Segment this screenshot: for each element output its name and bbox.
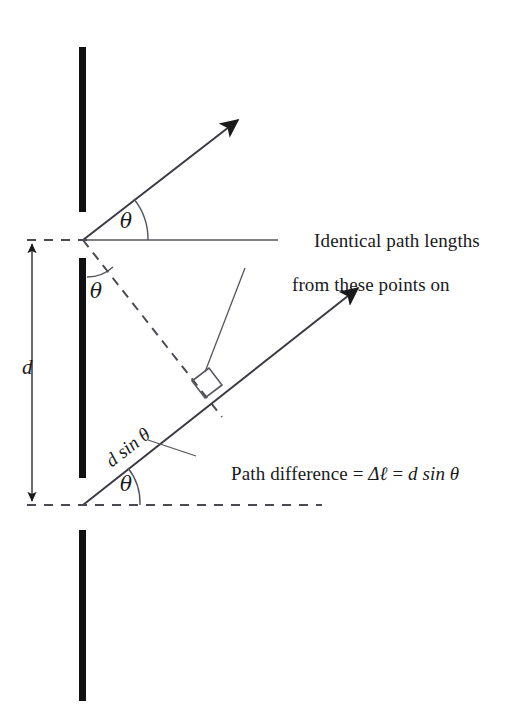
bottom-barrier: [79, 530, 86, 701]
middle-barrier: [79, 258, 86, 478]
theta-arc-lower: [128, 468, 140, 505]
lower-ray: [83, 288, 358, 505]
double-slit-diagram: θ θ θ d d sin θ Identical path lengths f…: [0, 0, 506, 719]
theta-arc-interior: [87, 267, 113, 277]
theta-arc-upper: [134, 199, 148, 240]
leader-identical-paths: [205, 268, 245, 372]
diagram-canvas: [0, 0, 506, 719]
wavefront-dashed-line: [83, 240, 222, 417]
barrier-group: [79, 47, 86, 701]
lower-slit-group: [27, 288, 358, 505]
leader-line-group: [148, 268, 245, 456]
wavefront-construction-group: [83, 240, 222, 417]
upper-ray: [83, 120, 238, 240]
top-barrier: [79, 47, 86, 212]
upper-slit-group: [83, 120, 278, 240]
